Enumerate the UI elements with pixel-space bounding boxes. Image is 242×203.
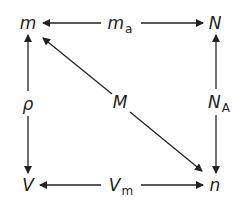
node-m: m (20, 15, 37, 32)
node-Vm-label: V (109, 175, 121, 195)
node-M: M (113, 94, 128, 111)
node-V: V (22, 177, 34, 194)
node-ma-subscript: a (125, 22, 132, 36)
arrow-M-to-m (43, 38, 112, 94)
node-N-label: N (209, 13, 222, 33)
node-n: n (210, 177, 221, 194)
node-N: N (209, 15, 222, 32)
node-M-label: M (113, 92, 128, 112)
node-n-label: n (210, 175, 221, 195)
node-Vm: Vm (109, 177, 133, 194)
node-NA-subscript: A (222, 101, 230, 115)
node-rho-label: ρ (23, 94, 34, 114)
node-V-label: V (22, 175, 34, 195)
node-m-label: m (20, 13, 37, 33)
node-rho: ρ (23, 96, 34, 113)
node-Vm-subscript: m (121, 184, 133, 198)
node-ma: ma (108, 15, 133, 32)
node-NA-label: N (208, 92, 221, 112)
node-ma-label: m (108, 13, 125, 33)
arrow-M-to-n (130, 112, 202, 171)
node-NA: NA (208, 94, 230, 111)
